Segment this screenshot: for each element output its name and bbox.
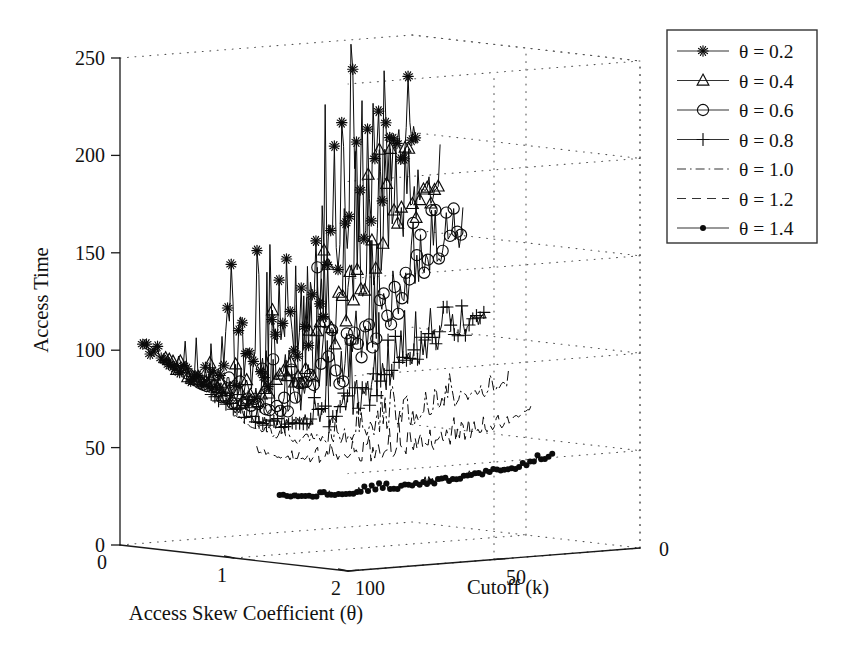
x-tick-label: 1 — [217, 564, 227, 586]
z-tick-label: 0 — [659, 538, 669, 560]
x-tick-label: 2 — [331, 577, 341, 599]
legend-item-label: θ = 0.4 — [739, 71, 794, 92]
y-axis-title: Access Time — [30, 247, 52, 352]
legend-item-label: θ = 0.8 — [739, 130, 793, 151]
z-tick — [494, 559, 505, 560]
data-marker-dot — [372, 487, 378, 493]
data-marker-dot — [358, 489, 364, 495]
data-marker-dot — [376, 480, 382, 486]
legend-item-label: θ = 0.2 — [739, 41, 793, 62]
legend-item-label: θ = 1.4 — [739, 218, 794, 239]
plot-canvas: 050100150200250012100500 Access Skew Coe… — [0, 0, 861, 664]
x-axis-title: Access Skew Coefficient (θ) — [129, 602, 363, 625]
legend-item-label: θ = 0.6 — [739, 100, 794, 121]
data-marker-dot — [365, 488, 371, 494]
z-tick — [348, 570, 359, 571]
z-tick-label: 100 — [355, 577, 385, 599]
y-tick-label: 50 — [85, 437, 105, 459]
y-tick-label: 100 — [75, 339, 105, 361]
y-tick-label: 250 — [75, 47, 105, 69]
data-marker-dot — [549, 451, 555, 457]
y-tick-label: 150 — [75, 242, 105, 264]
legend[interactable]: θ = 0.2θ = 0.4θ = 0.6θ = 0.8θ = 1.0θ = 1… — [667, 30, 817, 243]
y-tick-label: 200 — [75, 144, 105, 166]
legend-item-label: θ = 1.2 — [739, 189, 793, 210]
data-marker-dot — [531, 459, 537, 465]
x-tick-label: 0 — [97, 551, 107, 573]
data-marker-dot — [383, 480, 389, 486]
chart-figure: 050100150200250012100500 Access Skew Coe… — [0, 0, 861, 664]
z-axis-title: Cutoff (k) — [467, 576, 549, 599]
legend-item-label: θ = 1.0 — [739, 159, 793, 180]
legend-marker-dot-icon — [700, 225, 706, 231]
